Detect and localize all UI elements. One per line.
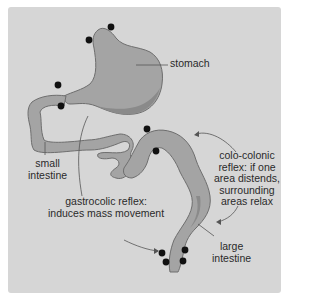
label-line: colo-colonic [214,150,280,162]
contraction-dot [108,24,115,31]
label-large-intestine: large intestine [212,241,251,264]
label-colo-colonic-reflex: colo-colonic reflex: if one area distend… [214,150,280,208]
contraction-dot [153,148,160,155]
large-intestine-leader-line [198,224,214,236]
gastrocolic-arrow [124,240,158,251]
label-line: large [212,241,251,253]
gastrocolic-leader-line [79,116,88,196]
contraction-dot [86,37,93,44]
arrowhead-icon [154,248,159,254]
arrowhead-icon [216,219,221,225]
label-line: area distends, [214,173,280,185]
label-line: intestine [212,253,251,265]
contraction-dot [159,250,166,257]
contraction-dot [163,259,170,266]
label-line: areas relax [214,196,280,208]
label-gastrocolic-reflex: gastrocolic reflex: induces mass movemen… [48,196,164,219]
label-line: intestine [28,170,67,182]
label-line: small [28,158,67,170]
contraction-dot [55,82,62,89]
contraction-dot [180,258,187,265]
stomach-shape [64,28,163,114]
label-line: gastrocolic reflex: [48,196,164,208]
label-stomach: stomach [170,58,210,70]
contraction-dot [182,247,189,254]
label-line: induces mass movement [48,208,164,220]
label-small-intestine: small intestine [28,158,67,181]
contraction-dot [58,103,65,110]
contraction-dot [144,126,151,133]
arrowhead-icon [194,131,199,137]
